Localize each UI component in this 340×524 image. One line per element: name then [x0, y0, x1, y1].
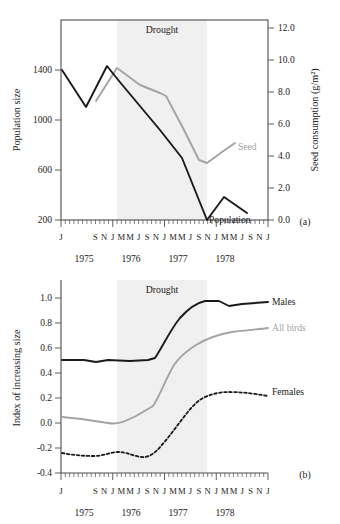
left-tick-06-b: 0.6 [40, 343, 52, 353]
left-tick-00-b: 0.0 [40, 418, 52, 428]
left-tick-04-b: 0.4 [40, 368, 52, 378]
panel-a-population-seed: Drought 200 600 1000 1400 Population siz… [0, 0, 340, 268]
x-axis-month-label: J [189, 486, 193, 496]
right-tick-6-a: 6.0 [278, 119, 290, 129]
x-axis-month-label: N [153, 232, 160, 242]
x-axis-month-label: N [256, 486, 263, 496]
right-tick-10-a: 10.0 [278, 55, 295, 65]
x-axis-month-label: N [101, 232, 108, 242]
left-tick-neg02-b: -0.2 [37, 443, 52, 453]
females-series-label: Females [272, 386, 304, 397]
x-axis-month-label: J [189, 232, 193, 242]
year-label-1977-b: 1977 [168, 507, 187, 518]
right-tick-2-a: 2.0 [278, 183, 290, 193]
x-axis-month-label: J [111, 232, 115, 242]
x-axis-month-label: J [215, 232, 219, 242]
left-axis-title-b: Index of increasing size [11, 329, 22, 427]
x-axis-month-labels-a: JSNJMMJSNJMMJSNJMMJSNJ [59, 232, 270, 242]
x-axis-month-label: M [221, 232, 229, 242]
left-tick-200-a: 200 [38, 215, 53, 225]
x-axis-month-label: J [240, 486, 244, 496]
x-axis-month-label: M [230, 232, 238, 242]
x-axis-month-label: M [126, 232, 134, 242]
right-tick-4-a: 4.0 [278, 151, 290, 161]
x-axis-month-label: M [178, 232, 186, 242]
left-tick-600-a: 600 [38, 165, 53, 175]
x-axis-month-label: M [118, 486, 126, 496]
year-label-1975-b: 1975 [74, 507, 93, 518]
x-axis-ticks-b [61, 473, 268, 480]
panel-b-size-index: Drought -0.4 -0.2 0.0 0.2 0.4 0.6 0.8 1.… [0, 268, 340, 524]
seed-series-label: Seed [238, 141, 257, 152]
year-label-1976-a: 1976 [121, 253, 140, 264]
year-label-1977-a: 1977 [168, 253, 187, 264]
x-axis-month-label: M [118, 232, 126, 242]
x-axis-month-label: J [266, 486, 270, 496]
x-axis-month-label: J [266, 232, 270, 242]
x-axis-month-label: M [178, 486, 186, 496]
left-tick-1000-a: 1000 [33, 115, 52, 125]
x-axis-month-label: S [248, 232, 253, 242]
all-birds-series-label: All birds [272, 322, 306, 333]
x-axis-month-label: M [126, 486, 134, 496]
drought-label-a: Drought [146, 24, 179, 35]
x-axis-month-label: M [169, 486, 177, 496]
x-axis-month-label: N [205, 486, 212, 496]
left-tick-08-b: 0.8 [40, 318, 52, 328]
x-axis-month-label: M [221, 486, 229, 496]
x-axis-month-label: M [230, 486, 238, 496]
x-axis-month-label: J [137, 486, 141, 496]
panel-b-svg: Drought -0.4 -0.2 0.0 0.2 0.4 0.6 0.8 1.… [0, 268, 340, 524]
year-label-1978-b: 1978 [215, 507, 234, 518]
x-axis-month-label: S [145, 232, 150, 242]
right-tick-12-a: 12.0 [278, 23, 295, 33]
x-axis-month-label: S [145, 486, 150, 496]
year-label-1975-a: 1975 [74, 253, 93, 264]
left-tick-neg04-b: -0.4 [37, 468, 52, 478]
drought-band-a [117, 20, 207, 220]
left-axis-ticks-a [55, 70, 61, 220]
left-axis-title-a: Population size [11, 88, 22, 151]
x-axis-month-label: J [163, 486, 167, 496]
x-axis-month-label: J [240, 232, 244, 242]
year-label-1976-b: 1976 [121, 507, 140, 518]
population-series-label: Population [209, 214, 251, 225]
x-axis-month-labels-b: JSNJMMJSNJMMJSNJMMJSNJ [59, 486, 270, 496]
left-tick-10-b: 1.0 [40, 293, 52, 303]
x-axis-month-label: N [205, 232, 212, 242]
right-tick-8-a: 8.0 [278, 87, 290, 97]
panel-a-label: (a) [300, 216, 311, 228]
left-tick-1400-a: 1400 [33, 65, 52, 75]
x-axis-month-label: M [169, 232, 177, 242]
figure-container: Drought 200 600 1000 1400 Population siz… [0, 0, 340, 524]
x-axis-month-label: S [197, 232, 202, 242]
right-axis-ticks-a [268, 28, 274, 220]
x-axis-month-label: J [215, 486, 219, 496]
panel-b-label: (b) [299, 469, 310, 481]
drought-label-b: Drought [146, 284, 179, 295]
x-axis-month-label: J [59, 486, 63, 496]
x-axis-month-label: S [197, 486, 202, 496]
panel-a-svg: Drought 200 600 1000 1400 Population siz… [0, 0, 340, 268]
x-axis-month-label: N [256, 232, 263, 242]
x-axis-month-label: N [101, 486, 108, 496]
x-axis-month-label: J [163, 232, 167, 242]
right-axis-title-a: Seed consumption (g/m²) [309, 68, 321, 171]
males-series-label: Males [272, 296, 296, 307]
x-axis-month-label: J [137, 232, 141, 242]
left-axis-ticks-b [55, 298, 61, 473]
x-axis-month-label: S [93, 232, 98, 242]
x-axis-month-label: S [248, 486, 253, 496]
left-tick-02-b: 0.2 [40, 393, 52, 403]
year-label-1978-a: 1978 [215, 253, 234, 264]
x-axis-month-label: N [153, 486, 160, 496]
right-tick-0-a: 0.0 [278, 215, 290, 225]
x-axis-month-label: J [111, 486, 115, 496]
x-axis-month-label: S [93, 486, 98, 496]
x-axis-month-label: J [59, 232, 63, 242]
